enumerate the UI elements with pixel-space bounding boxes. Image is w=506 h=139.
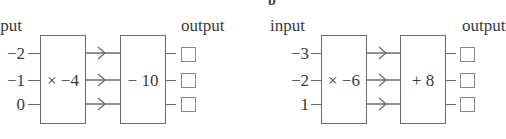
- input-value: −2: [0, 45, 25, 62]
- arrow-icon: [86, 98, 120, 110]
- output-label: output: [181, 17, 224, 34]
- machine-operation: × −6: [322, 72, 366, 89]
- connector-line: [311, 80, 321, 81]
- machine-subtract: − 10: [120, 35, 166, 124]
- connector-line: [166, 104, 176, 105]
- input-value: −2: [279, 72, 309, 89]
- arrow-icon: [86, 47, 120, 59]
- output-answer-box[interactable]: [460, 97, 475, 112]
- machine-operation: × −4: [41, 72, 85, 89]
- connector-line: [28, 53, 40, 54]
- machine-operation: + 8: [401, 72, 445, 89]
- machine-operation: − 10: [121, 72, 165, 89]
- connector-line: [166, 80, 176, 81]
- machine-multiply: × −4: [40, 35, 86, 124]
- connector-line: [28, 80, 40, 81]
- input-value: −3: [279, 45, 309, 62]
- connector-line: [446, 80, 456, 81]
- arrow-icon: [367, 47, 401, 59]
- input-value: 0: [0, 96, 25, 113]
- arrow-icon: [367, 74, 401, 86]
- output-answer-box[interactable]: [460, 73, 475, 88]
- connector-line: [28, 104, 40, 105]
- machine-multiply: × −6: [321, 35, 367, 124]
- connector-line: [166, 53, 176, 54]
- part-label: b: [268, 0, 276, 8]
- input-label: input: [0, 17, 22, 34]
- machine-add: + 8: [400, 35, 446, 124]
- connector-line: [311, 104, 321, 105]
- arrow-icon: [86, 74, 120, 86]
- connector-line: [446, 53, 456, 54]
- output-answer-box[interactable]: [460, 47, 475, 62]
- output-label: output: [462, 17, 505, 34]
- arrow-icon: [367, 98, 401, 110]
- connector-line: [446, 104, 456, 105]
- connector-line: [311, 53, 321, 54]
- output-answer-box[interactable]: [181, 97, 196, 112]
- input-value: 1: [279, 96, 309, 113]
- output-answer-box[interactable]: [181, 47, 196, 62]
- input-value: −1: [0, 72, 25, 89]
- output-answer-box[interactable]: [181, 73, 196, 88]
- input-label: input: [270, 17, 305, 34]
